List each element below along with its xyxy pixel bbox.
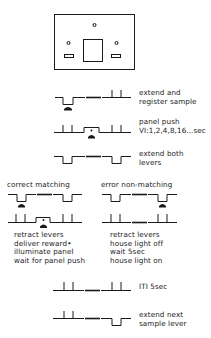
timeline-correct-b bbox=[8, 214, 82, 223]
timeline-correct-a bbox=[8, 195, 82, 202]
branch-outcomes-error: retract levers house light off wait 5sec… bbox=[110, 231, 163, 265]
outcome-line: house light on bbox=[110, 257, 163, 266]
timeline-extend-next bbox=[53, 311, 131, 326]
step-label-extend-both: extend both levers bbox=[139, 150, 184, 167]
step-label-panel-push: panel push VI:1,2,4,8,16...sec bbox=[139, 118, 206, 135]
step-label-extend-next: extend next sample lever bbox=[139, 311, 187, 328]
reward-pellet-icon bbox=[91, 130, 93, 132]
branch-title-correct: correct matching bbox=[7, 181, 70, 190]
label-line: sample lever bbox=[139, 320, 187, 329]
timeline-extend-both bbox=[54, 157, 131, 164]
label-line: register sample bbox=[139, 98, 197, 107]
timeline-error-b bbox=[102, 214, 177, 223]
timeline-iti bbox=[53, 282, 131, 291]
paw-icon bbox=[159, 204, 166, 208]
diagram-graphics bbox=[0, 0, 211, 338]
label-line: ITI 5sec bbox=[139, 283, 167, 292]
outcome-line: wait for panel push bbox=[14, 257, 85, 266]
label-line: levers bbox=[139, 159, 184, 168]
chamber-panel bbox=[55, 15, 135, 70]
branch-outcomes-correct: retract levers deliver reward• illuminat… bbox=[14, 231, 85, 265]
timeline-panel-push bbox=[54, 125, 131, 133]
step-label-extend-register: extend and register sample bbox=[139, 89, 197, 106]
step-label-iti: ITI 5sec bbox=[139, 283, 167, 292]
paw-icon bbox=[64, 107, 72, 111]
label-line: VI:1,2,4,8,16...sec bbox=[139, 127, 206, 136]
reward-pellet-icon bbox=[43, 219, 45, 221]
branch-title-error: error non-matching bbox=[101, 181, 172, 190]
paw-icon bbox=[88, 135, 95, 139]
timeline-error-a bbox=[102, 195, 177, 202]
paw-icon bbox=[18, 204, 25, 208]
timeline-extend-register bbox=[55, 90, 131, 105]
paw-icon bbox=[40, 225, 47, 229]
